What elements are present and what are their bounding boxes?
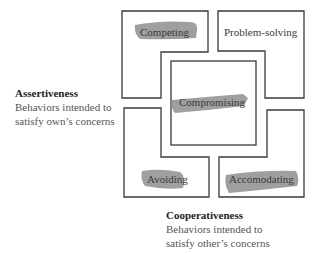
assertiveness-desc-line1: Behaviors intended to [15, 100, 115, 114]
problem-solving-label: Problem-solving [224, 27, 297, 38]
cooperativeness-axis-label: Cooperativeness Behaviors intended to sa… [166, 208, 270, 250]
problem-solving-region [218, 11, 304, 98]
assertiveness-desc-line2: satisfy own’s concerns [15, 114, 115, 128]
compromising-label: Compromising [179, 97, 245, 108]
cooperativeness-title: Cooperativeness [166, 208, 270, 222]
competing-label: Competing [140, 27, 189, 38]
accommodating-label: Accomodating [229, 174, 294, 185]
cooperativeness-desc-line1: Behaviors intended to [166, 222, 270, 236]
assertiveness-axis-label: Assertiveness Behaviors intended to sati… [15, 86, 115, 128]
avoiding-label: Avoiding [147, 174, 188, 185]
cooperativeness-desc-line2: satisfy other’s concerns [166, 236, 270, 250]
assertiveness-title: Assertiveness [15, 86, 115, 100]
